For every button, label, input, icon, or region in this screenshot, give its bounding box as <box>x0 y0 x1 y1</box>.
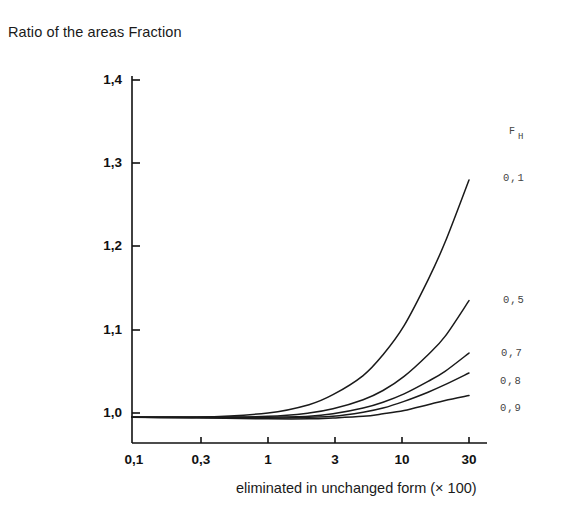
y-tick-label-3: 1,3 <box>76 155 122 170</box>
chart-figure: Ratio of the areas Fraction 1,4 1,3 1,2 … <box>0 0 575 522</box>
x-tick-label-3: 3 <box>315 452 355 467</box>
y-tick-marks <box>132 80 140 413</box>
x-tick-label-0: 0,1 <box>114 452 154 467</box>
data-curves <box>132 180 469 419</box>
x-tick-label-5: 30 <box>449 452 489 467</box>
legend-subscript: H <box>518 132 523 142</box>
series-label-3: 0,8 <box>500 375 522 387</box>
legend-title: FH <box>509 126 520 137</box>
series-label-4: 0,9 <box>500 402 522 414</box>
legend-symbol: F <box>509 126 515 137</box>
curve-0-1 <box>132 180 469 418</box>
y-tick-label-4: 1,4 <box>76 72 122 87</box>
x-axis-title: eliminated in unchanged form (× 100) <box>236 480 477 496</box>
x-tick-label-2: 1 <box>248 452 288 467</box>
series-label-0: 0,1 <box>503 172 525 184</box>
y-tick-label-1: 1,1 <box>76 322 122 337</box>
y-tick-label-0: 1,0 <box>76 405 122 420</box>
x-tick-label-1: 0,3 <box>181 452 221 467</box>
x-tick-marks <box>201 437 469 443</box>
curve-0-5 <box>132 301 469 418</box>
y-tick-label-2: 1,2 <box>76 238 122 253</box>
series-label-1: 0,5 <box>503 294 525 306</box>
curve-0-8 <box>132 373 469 418</box>
series-label-2: 0,7 <box>501 347 523 359</box>
x-tick-label-4: 10 <box>382 452 422 467</box>
